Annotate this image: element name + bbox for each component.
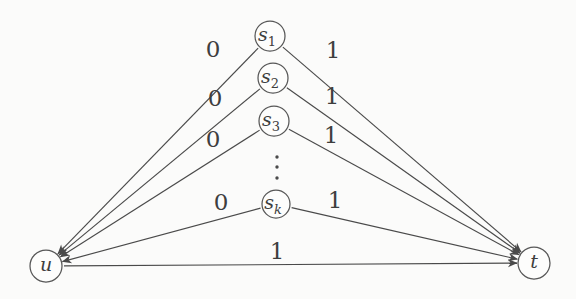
vertical-ellipsis-dot <box>275 155 278 158</box>
edge-s3-u-label: 0 <box>206 126 221 152</box>
edge-s2-u-label: 0 <box>208 85 223 111</box>
edge-s2-t-label: 1 <box>325 83 340 109</box>
edge-s1-u-label: 0 <box>206 36 221 62</box>
edge-sk-t-label: 1 <box>328 187 343 213</box>
node-t-label: t <box>530 250 538 272</box>
graph-diagram: 010101011s1s2s3skut <box>0 0 576 299</box>
figure-stage: 010101011s1s2s3skut <box>0 0 576 299</box>
edge-u-t-label: 1 <box>270 238 285 264</box>
vertical-ellipsis-dot <box>275 176 278 179</box>
edge-sk-u-label: 0 <box>214 189 229 215</box>
page-background <box>0 0 576 299</box>
edge-s1-t-label: 1 <box>326 37 341 63</box>
edge-s3-t-label: 1 <box>324 122 339 148</box>
vertical-ellipsis-dot <box>275 165 278 168</box>
node-u-label: u <box>40 253 52 275</box>
